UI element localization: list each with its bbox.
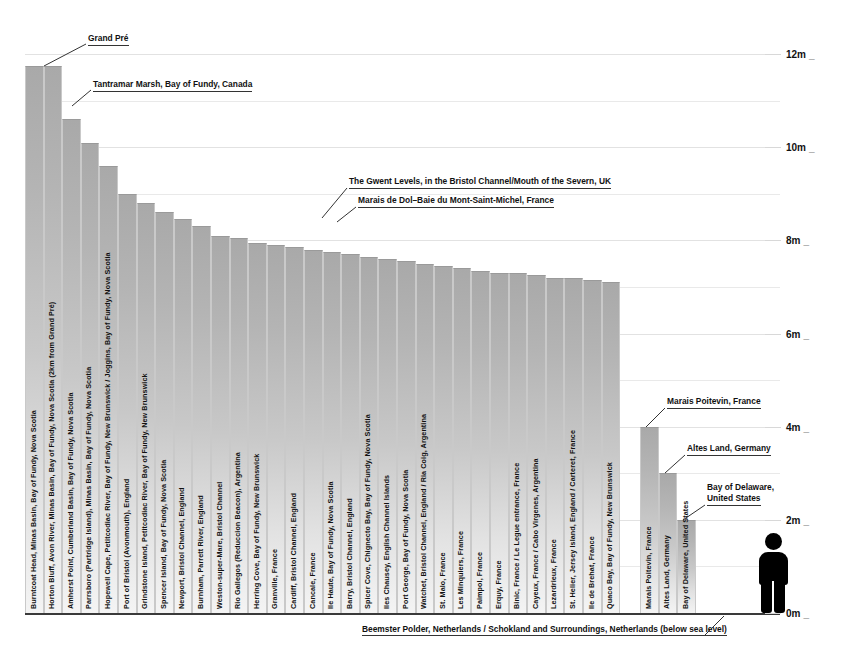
tidal-range-chart-page: Burntcoat Head, Minas Basin, Bay of Fund… [0, 0, 850, 668]
leader-line-footnote [0, 0, 850, 668]
